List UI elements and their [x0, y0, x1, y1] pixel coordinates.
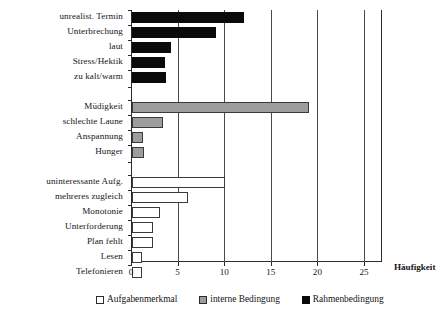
- x-axis-tick: [271, 262, 272, 266]
- y-axis-tick: [128, 162, 131, 163]
- legend-swatch-aufgabe: [96, 296, 104, 304]
- category-label: zu kalt/warm: [74, 71, 123, 81]
- bar: [132, 177, 225, 188]
- bar: [132, 192, 188, 203]
- gridline: [317, 10, 318, 262]
- x-axis-tick-label: 5: [175, 267, 180, 277]
- category-label: Stress/Hektik: [73, 56, 123, 66]
- y-axis-tick: [128, 40, 131, 41]
- x-axis-tick: [364, 262, 365, 266]
- bar: [132, 207, 160, 218]
- category-label: Plan fehlt: [87, 236, 123, 246]
- y-axis-tick: [128, 87, 131, 88]
- gridline: [224, 10, 225, 262]
- y-axis-tick: [128, 130, 131, 131]
- x-axis-tick-label: 20: [313, 267, 322, 277]
- x-axis-tick-label: 10: [220, 267, 229, 277]
- chart-legend: Aufgabenmerkmalinterne BedingungRahmenbe…: [96, 294, 384, 305]
- plot-frame-right: [381, 10, 382, 262]
- bar-chart: unrealist. TerminUnterbrechunglautStress…: [0, 0, 441, 321]
- category-label: Monotonie: [82, 206, 123, 216]
- x-axis-tick-label: 15: [266, 267, 275, 277]
- y-axis-tick: [128, 190, 131, 191]
- legend-swatch-rahmen: [302, 296, 310, 304]
- y-axis-tick: [128, 175, 131, 176]
- legend-item[interactable]: Aufgabenmerkmal: [96, 294, 177, 305]
- category-label: Unterforderung: [65, 221, 123, 231]
- y-axis-tick: [128, 70, 131, 71]
- bar: [132, 222, 153, 233]
- bar: [132, 132, 143, 143]
- y-axis-tick: [128, 205, 131, 206]
- category-label: unrealist. Termin: [59, 11, 123, 21]
- bar: [132, 117, 163, 128]
- gridline: [364, 10, 365, 262]
- legend-swatch-interne: [199, 296, 207, 304]
- bar: [132, 252, 142, 263]
- category-label: Lesen: [101, 251, 123, 261]
- category-label: schlechte Laune: [63, 116, 123, 126]
- category-label: uninteressante Aufg.: [46, 176, 123, 186]
- gridline: [271, 10, 272, 262]
- legend-label: Aufgabenmerkmal: [107, 294, 177, 305]
- bar: [132, 12, 244, 23]
- bar: [132, 147, 144, 158]
- y-axis-tick: [128, 55, 131, 56]
- bar: [132, 57, 165, 68]
- category-label: Telefonieren: [76, 266, 123, 276]
- x-axis-line: [131, 261, 382, 262]
- y-axis-tick: [128, 220, 131, 221]
- x-axis-tick: [224, 262, 225, 266]
- x-axis-tick-label: 0: [129, 267, 134, 277]
- y-axis-tick: [128, 10, 131, 11]
- y-axis-tick: [128, 25, 131, 26]
- bar: [132, 27, 216, 38]
- legend-item[interactable]: interne Bedingung: [199, 294, 280, 305]
- x-axis-tick: [317, 262, 318, 266]
- gridline: [178, 10, 179, 262]
- y-axis-tick: [128, 100, 131, 101]
- category-label: mehreres zugleich: [55, 191, 123, 201]
- y-axis-tick: [128, 235, 131, 236]
- bar: [132, 102, 309, 113]
- category-axis-labels: unrealist. TerminUnterbrechunglautStress…: [0, 0, 127, 262]
- category-label: Müdigkeit: [84, 101, 123, 111]
- legend-item[interactable]: Rahmenbedingung: [302, 294, 384, 305]
- x-axis-tick-label: 25: [359, 267, 368, 277]
- category-label: Hunger: [95, 146, 123, 156]
- category-label: Anspannung: [76, 131, 123, 141]
- legend-label: Rahmenbedingung: [313, 294, 384, 305]
- category-label: Unterbrechung: [67, 26, 123, 36]
- category-label: laut: [109, 41, 123, 51]
- y-axis-tick: [128, 145, 131, 146]
- bar: [132, 72, 166, 83]
- x-axis-title: Häufigkeit: [394, 262, 435, 272]
- legend-label: interne Bedingung: [210, 294, 280, 305]
- x-axis-tick: [178, 262, 179, 266]
- bar: [132, 42, 171, 53]
- bar: [132, 237, 153, 248]
- plot-area: 0510152025: [131, 10, 382, 262]
- y-axis-tick: [128, 250, 131, 251]
- y-axis-tick: [128, 115, 131, 116]
- x-axis-tick: [131, 262, 132, 266]
